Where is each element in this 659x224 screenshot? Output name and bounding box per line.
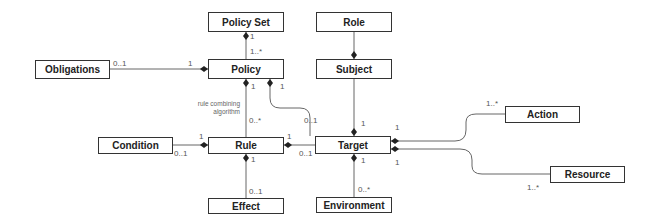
multiplicity: 1 [287,133,291,141]
multiplicity: 0..1 [304,117,317,125]
multiplicity: 1 [361,120,365,128]
note-line: algorithm [170,108,240,116]
multiplicity: 0..1 [174,150,187,158]
class-condition: Condition [98,137,173,154]
multiplicity: 0..* [358,186,370,194]
class-effect: Effect [208,198,284,214]
class-label: Obligations [45,64,100,75]
multiplicity: 1 [361,157,365,165]
class-role: Role [316,12,392,32]
multiplicity: 0..1 [113,60,126,68]
multiplicity: 0..* [249,117,261,125]
class-label: Environment [323,200,384,211]
class-label: Action [527,109,558,120]
multiplicity: 1..* [486,100,498,108]
class-subject: Subject [316,59,392,79]
multiplicity: 1 [250,33,254,41]
class-label: Condition [112,140,159,151]
class-rule: Rule [208,137,284,154]
class-label: Subject [336,64,372,75]
class-policy: Policy [208,59,284,79]
multiplicity: 0..1 [299,150,312,158]
multiplicity: 1 [251,156,255,164]
multiplicity: 1 [280,83,284,91]
multiplicity: 1 [395,159,399,167]
note-line: rule combining [170,100,240,108]
class-action: Action [505,106,580,123]
class-environment: Environment [316,197,392,213]
multiplicity: 1 [251,83,255,91]
class-label: Policy [231,64,260,75]
class-label: Rule [235,140,257,151]
multiplicity: 1 [188,60,192,68]
class-label: Effect [232,201,260,212]
class-label: Role [343,17,365,28]
class-resource: Resource [550,166,625,183]
multiplicity: 1..* [527,184,539,192]
multiplicity: 1 [199,133,203,141]
class-label: Target [338,140,368,151]
class-policy-set: Policy Set [208,12,284,32]
class-target: Target [315,136,391,154]
multiplicity: 0..1 [249,188,262,196]
class-obligations: Obligations [35,60,110,79]
class-label: Resource [565,169,611,180]
multiplicity: 1..* [250,48,262,56]
uml-diagram: Policy Set Role Obligations Policy Subje… [0,0,659,224]
class-label: Policy Set [222,17,270,28]
multiplicity: 1 [395,124,399,132]
rule-combining-algorithm-note: rule combining algorithm [170,100,240,116]
